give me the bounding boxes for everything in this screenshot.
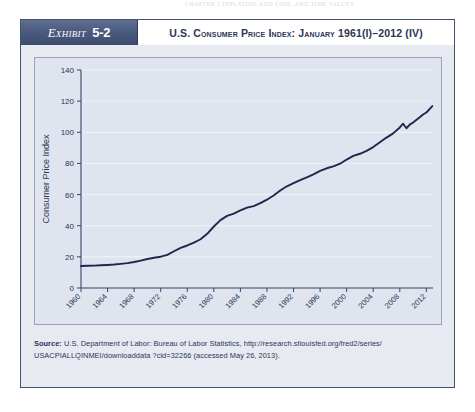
exhibit-header: Exhibit 5-2 U.S. Consumer Price Index: J… xyxy=(21,20,454,45)
svg-text:1964: 1964 xyxy=(91,292,109,310)
svg-text:1984: 1984 xyxy=(223,292,241,310)
svg-text:20: 20 xyxy=(65,253,74,262)
chart-panel: 020406080100120140 196019641968197219761… xyxy=(34,57,442,325)
cpi-series-line xyxy=(81,106,432,266)
svg-text:40: 40 xyxy=(65,222,74,231)
svg-text:140: 140 xyxy=(61,66,75,75)
svg-text:1980: 1980 xyxy=(197,292,215,310)
svg-text:2012: 2012 xyxy=(409,292,427,310)
source-label: Source: xyxy=(34,339,62,348)
svg-text:1992: 1992 xyxy=(277,292,295,310)
exhibit-tag: Exhibit 5-2 xyxy=(21,20,138,45)
svg-text:100: 100 xyxy=(61,128,75,137)
svg-text:0: 0 xyxy=(70,284,75,293)
chart-y-axis xyxy=(77,70,81,288)
svg-text:1988: 1988 xyxy=(250,292,268,310)
svg-text:80: 80 xyxy=(65,159,74,168)
svg-text:1972: 1972 xyxy=(144,292,162,310)
exhibit-frame: Exhibit 5-2 U.S. Consumer Price Index: J… xyxy=(20,19,455,388)
chart-gridlines xyxy=(81,70,433,257)
svg-text:120: 120 xyxy=(61,97,75,106)
chart-y-axis-title: Consumer Price Index xyxy=(41,134,51,224)
svg-text:2008: 2008 xyxy=(383,292,401,310)
chart-x-tick-labels: 1960196419681972197619801984198819921996… xyxy=(64,292,428,310)
svg-text:1976: 1976 xyxy=(170,292,188,310)
chart-x-axis xyxy=(81,288,433,292)
exhibit-tag-word: Exhibit xyxy=(48,25,87,41)
cpi-line-chart: 020406080100120140 196019641968197219761… xyxy=(35,58,441,324)
exhibit-tag-number: 5-2 xyxy=(92,25,110,40)
exhibit-page: CHAPTER 5 INFLATION AND TIME, AND TIME V… xyxy=(0,0,475,412)
exhibit-title: U.S. Consumer Price Index: January 1961(… xyxy=(138,20,454,45)
source-text: U.S. Department of Labor: Bureau of Labo… xyxy=(34,339,382,360)
svg-text:2000: 2000 xyxy=(330,292,348,310)
chart-y-tick-labels: 020406080100120140 xyxy=(61,66,75,293)
svg-text:1960: 1960 xyxy=(64,292,82,310)
chart-plot-area: 020406080100120140 196019641968197219761… xyxy=(35,58,441,324)
svg-text:1996: 1996 xyxy=(303,292,321,310)
svg-text:1968: 1968 xyxy=(117,292,135,310)
svg-text:2004: 2004 xyxy=(356,292,374,310)
svg-text:Consumer Price Index: Consumer Price Index xyxy=(41,134,51,224)
svg-text:60: 60 xyxy=(65,191,74,200)
source-note: Source: U.S. Department of Labor: Bureau… xyxy=(34,338,444,361)
running-head: CHAPTER 5 INFLATION AND TIME, AND TIME V… xyxy=(185,1,470,10)
